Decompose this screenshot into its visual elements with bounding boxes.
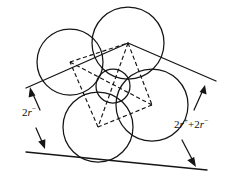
- tangent-line-lower: [26, 152, 207, 170]
- figure-root: 2r− 2r++2r−: [0, 0, 229, 183]
- arrow-lower-left-head: [38, 139, 45, 149]
- rhombus-edge-right-bottom: [98, 105, 152, 127]
- arrow-upper-right-shaft: [194, 90, 203, 110]
- left-label-superscript: −: [32, 104, 36, 113]
- rhombus-group: [70, 43, 152, 127]
- arrow-lower-right-head: [187, 157, 196, 167]
- circle-center-small: [96, 69, 130, 103]
- diagonals-group: [70, 43, 152, 127]
- left-dimension-arrows: [29, 87, 46, 149]
- arrow-lower-right-shaft: [182, 140, 193, 161]
- left-dimension-label: 2r−: [22, 106, 36, 118]
- diagonal-left-right: [70, 62, 152, 105]
- arrow-upper-right-head: [200, 85, 207, 95]
- geometry-diagram: [0, 0, 229, 183]
- right-label-superscript-b: −: [204, 116, 208, 125]
- right-dimension-label: 2r++2r−: [174, 118, 208, 130]
